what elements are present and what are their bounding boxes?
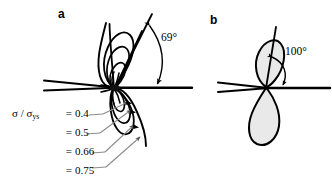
panel-b-letter: b xyxy=(210,14,217,26)
axis-line-lower-left-b xyxy=(218,88,266,92)
legend-row: = 0.75 xyxy=(12,165,94,184)
lobe-lower-b xyxy=(249,88,279,145)
legend-equals: = xyxy=(58,146,75,157)
axis-line-lower-left xyxy=(44,88,115,91)
legend-symbol: σ / σys xyxy=(12,108,58,121)
legend-symbol-subscript: ys xyxy=(32,112,39,121)
angle-label-a: 69° xyxy=(161,32,177,44)
legend-row: = 0.5 xyxy=(12,127,94,146)
crack-tip-blob xyxy=(110,85,120,91)
axis-line-upper-left-b xyxy=(218,83,266,88)
legend-equals: = xyxy=(58,165,75,176)
legend-row: σ / σys = 0.4 xyxy=(12,108,94,127)
legend-equals: = xyxy=(58,108,75,119)
panel-b-graphic xyxy=(218,27,330,145)
panel-a-letter: a xyxy=(58,8,65,20)
angle-label-b: 100° xyxy=(285,46,307,58)
leader-066b xyxy=(105,125,134,152)
legend-value: 0.5 xyxy=(75,127,89,138)
legend-row: = 0.66 xyxy=(12,146,94,165)
pointer-066 xyxy=(133,124,139,129)
panel-b-axis-lines xyxy=(218,83,330,93)
panel-a-direction-lines xyxy=(110,14,153,88)
legend-value: 0.66 xyxy=(75,146,94,157)
figure-root: a b 69° 100° σ / σys = 0.4 = 0.5 = 0.66 … xyxy=(0,0,332,193)
legend: σ / σys = 0.4 = 0.5 = 0.66 = 0.75 xyxy=(12,108,94,184)
legend-value: 0.4 xyxy=(75,108,89,119)
leader-075b xyxy=(106,137,140,167)
legend-value: 0.75 xyxy=(75,165,94,176)
legend-symbol-main: σ / σ xyxy=(12,107,32,119)
legend-equals: = xyxy=(58,127,75,138)
